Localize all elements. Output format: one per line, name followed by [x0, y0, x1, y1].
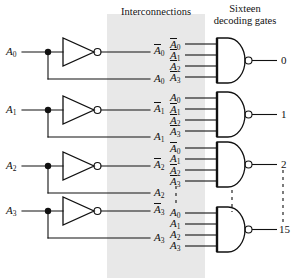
label-output-a2-true: A2: [154, 187, 164, 199]
gate1-output-bubble: [245, 111, 252, 118]
label-output-a0-true: A0: [154, 73, 164, 85]
gate2-body: [217, 142, 245, 187]
gate0-input-label-3: A3: [170, 71, 180, 84]
label-output-a1-true: A1: [154, 131, 164, 143]
label-input-a3: A3: [6, 205, 16, 217]
gate15-body: [217, 207, 245, 252]
gate2-output-label: 2: [281, 159, 287, 170]
decoder-circuit-diagram: Interconnections Sixteen decoding gates …: [0, 0, 303, 278]
label-output-a3-complement: A3: [154, 203, 164, 216]
inverter-triangle-a1: [63, 96, 94, 124]
gate0-output-label: 0: [281, 55, 287, 66]
gate0-output-bubble: [245, 57, 252, 64]
gate15-input-label-3: A3: [170, 240, 180, 252]
label-output-a3-true: A3: [154, 232, 164, 244]
label-input-a1: A1: [6, 104, 16, 116]
label-input-a0: A0: [6, 46, 16, 58]
header-interconnections: Interconnections: [107, 6, 205, 18]
gate0-body: [217, 38, 245, 83]
label-output-a2-complement: A2: [154, 158, 164, 171]
gate1-input-label-3: A3: [170, 125, 180, 138]
circuit-schematic: [0, 0, 303, 278]
label-input-a2: A2: [6, 160, 16, 172]
gate15-output-bubble: [245, 226, 252, 233]
label-output-a0-complement: A0: [154, 44, 164, 57]
inverter-triangle-a3: [63, 197, 94, 225]
inverter-triangle-a0: [63, 38, 94, 66]
gate1-body: [217, 92, 245, 137]
gate2-output-bubble: [245, 161, 252, 168]
header-decoding-gates: Sixteen decoding gates: [212, 3, 278, 26]
gate1-output-label: 1: [281, 109, 287, 120]
label-output-a1-complement: A1: [154, 102, 164, 115]
gate2-input-label-3: A3: [170, 175, 180, 188]
gate15-output-label: 15: [279, 224, 290, 235]
inverter-triangle-a2: [63, 152, 94, 180]
